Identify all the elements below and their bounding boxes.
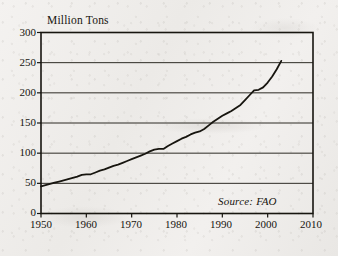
gridlines-group	[41, 63, 313, 184]
line-chart-figure: Million Tons 300 250 200 150 100 50 0 19…	[0, 0, 338, 256]
plot-area-svg	[0, 0, 338, 256]
axis-ticks-group	[37, 33, 313, 218]
data-line-world-meat-production	[41, 61, 281, 186]
